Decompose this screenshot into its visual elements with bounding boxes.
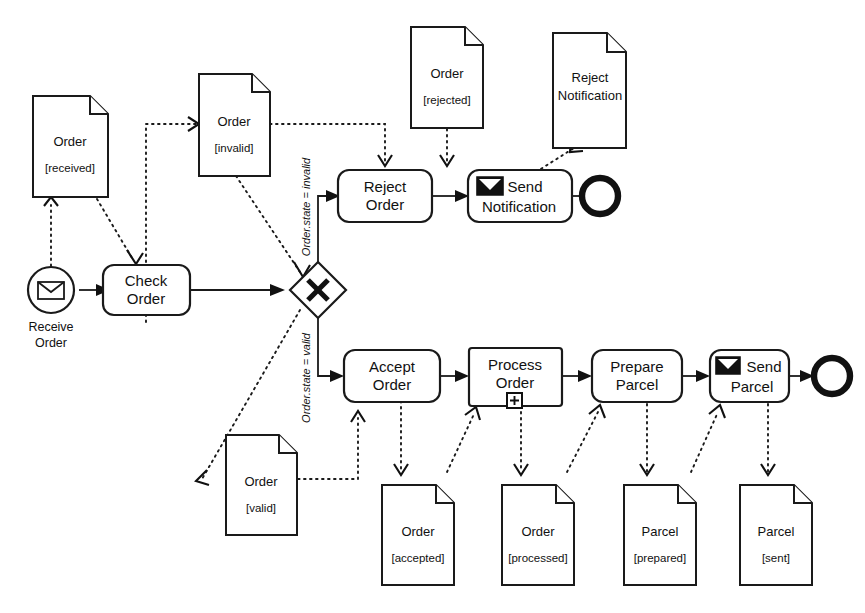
data-object-state: [valid] [246, 502, 276, 514]
assoc-order-invalid-route [270, 124, 385, 163]
data-object-state: [prepared] [634, 552, 686, 564]
assoc-order-accepted-to-process [447, 414, 474, 472]
task-label-line1: Reject [364, 178, 407, 195]
task-prepare-parcel[interactable]: Prepare Parcel [592, 350, 682, 402]
task-send-notification[interactable]: Send Notification [468, 170, 572, 222]
data-object-state: [accepted] [391, 552, 444, 564]
data-object-order-valid[interactable]: Order [valid] [226, 435, 297, 535]
condition-label-valid: Order.state = valid [300, 332, 312, 423]
task-label-line2: Parcel [731, 378, 774, 395]
task-check-order[interactable]: Check Order [103, 265, 190, 315]
data-object-name: Order [521, 524, 555, 539]
bpmn-svg: Order [received] Order [invalid] Order [… [0, 0, 865, 613]
task-label-line1: Accept [369, 358, 416, 375]
flow-gateway-to-reject [318, 196, 326, 271]
assoc-arrowhead [127, 250, 143, 264]
data-object-state: [rejected] [423, 94, 470, 106]
event-end-send-parcel[interactable] [814, 358, 850, 394]
data-object-fold-icon [794, 485, 812, 503]
collapsed-subprocess-plus-icon [507, 393, 522, 408]
flow-arrowhead [578, 370, 592, 382]
assoc-arrowhead [589, 405, 605, 418]
envelope-icon [38, 282, 64, 299]
data-object-name: Parcel [758, 524, 795, 539]
task-label-line2: Order [373, 376, 411, 393]
data-object-state: [processed] [508, 552, 567, 564]
data-object-name: Order [430, 66, 464, 81]
data-object-parcel-sent[interactable]: Parcel [sent] [740, 485, 812, 585]
data-object-name: Order [244, 474, 278, 489]
bpmn-diagram-canvas: Order [received] Order [invalid] Order [… [0, 0, 865, 613]
data-object-reject-notification[interactable]: Reject Notification [553, 33, 626, 148]
flow-arrowhead [455, 370, 469, 382]
data-object-order-rejected[interactable]: Order [rejected] [411, 27, 483, 128]
data-object-name-line1: Reject [572, 70, 609, 85]
task-label-line1: Send [507, 178, 542, 195]
condition-label-invalid: Order.state = invalid [300, 157, 312, 256]
assoc-order-invalid-to-gateway [236, 176, 300, 272]
assoc-order-processed-to-prepare [567, 412, 598, 472]
data-object-name: Order [53, 134, 87, 149]
data-object-fold-icon [436, 485, 454, 503]
task-label-line1: Check [125, 272, 168, 289]
flow-arrowhead [696, 370, 710, 382]
data-object-name: Parcel [642, 524, 679, 539]
task-process-order[interactable]: Process Order [469, 348, 562, 408]
data-object-name-line2: Notification [558, 88, 622, 103]
task-reject-order[interactable]: Reject Order [338, 170, 432, 222]
task-accept-order[interactable]: Accept Order [344, 350, 440, 402]
task-label-line2: Notification [482, 198, 556, 215]
data-object-fold-icon [279, 435, 297, 453]
assoc-arrowhead [351, 411, 365, 422]
task-label-line2: Order [496, 374, 534, 391]
data-object-fold-icon [556, 485, 574, 503]
data-object-name: Order [401, 524, 435, 539]
task-layer: Check Order Reject Order Send Notificati… [103, 170, 789, 408]
assoc-parcel-prepared-to-send [691, 412, 718, 472]
event-label-line2: Order [35, 336, 67, 350]
task-label-line2: Order [366, 196, 404, 213]
data-object-order-invalid[interactable]: Order [invalid] [199, 74, 270, 176]
end-event-circle [814, 358, 850, 394]
task-label-line1: Send [746, 358, 781, 375]
task-label-line1: Prepare [610, 358, 663, 375]
data-object-state: [invalid] [215, 142, 254, 154]
data-object-order-processed[interactable]: Order [processed] [502, 485, 574, 585]
data-object-fold-icon [90, 96, 108, 114]
data-object-name: Order [217, 114, 251, 129]
data-object-order-received[interactable]: Order [received] [33, 96, 108, 197]
end-event-circle [582, 178, 618, 214]
task-label-line2: Order [127, 290, 165, 307]
assoc-order-received-to-check [97, 199, 132, 258]
flow-arrowhead [330, 370, 344, 382]
envelope-icon [477, 177, 503, 195]
event-receive-order[interactable]: Receive Order [28, 267, 74, 350]
data-object-fold-icon [252, 74, 270, 92]
task-send-parcel[interactable]: Send Parcel [710, 350, 789, 402]
envelope-icon [716, 357, 740, 374]
data-object-fold-icon [678, 485, 696, 503]
flow-arrowhead [270, 284, 285, 296]
data-object-order-accepted[interactable]: Order [accepted] [382, 485, 454, 585]
data-object-parcel-prepared[interactable]: Parcel [prepared] [624, 485, 696, 585]
task-label-line2: Parcel [616, 376, 659, 393]
event-label-line1: Receive [28, 320, 73, 334]
event-end-reject[interactable] [582, 178, 618, 214]
task-label-line1: Process [488, 356, 542, 373]
data-object-state: [sent] [762, 552, 790, 564]
flow-gateway-to-accept [318, 310, 330, 376]
assoc-send-notification-to-reject-notification [536, 148, 574, 172]
data-object-state: [received] [45, 162, 95, 174]
